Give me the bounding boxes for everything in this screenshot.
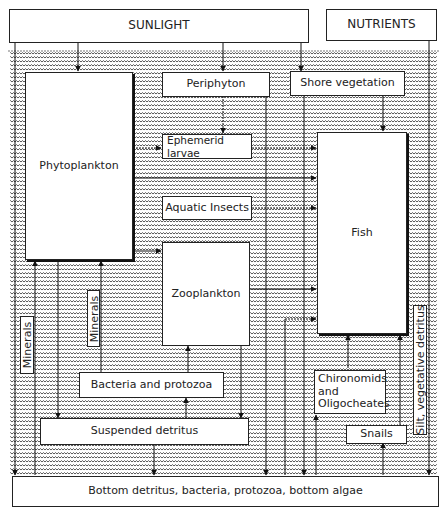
sunlight-box: SUNLIGHT — [9, 9, 309, 43]
silt-detritus-label: Silt, vegetative detritus — [414, 305, 427, 434]
nutrients-box: NUTRIENTS — [326, 9, 437, 41]
minerals-mid-box: Minerals — [87, 290, 100, 347]
silt-detritus-box: Silt, vegetative detritus — [413, 305, 427, 435]
suspended-detritus-box: Suspended detritus — [40, 418, 249, 445]
minerals-left-label: Minerals — [21, 322, 34, 368]
zooplankton-box: Zooplankton — [162, 242, 250, 346]
fish-box: Fish — [317, 132, 407, 334]
periphyton-box: Periphyton — [162, 72, 270, 97]
bacteria-protozoa-box: Bacteria and protozoa — [79, 372, 224, 398]
minerals-mid-label: Minerals — [87, 295, 100, 341]
shore-vegetation-box: Shore vegetation — [290, 71, 405, 96]
aquatic-insects-box: Aquatic Insects — [162, 196, 252, 220]
snails-box: Snails — [346, 425, 407, 444]
phytoplankton-box: Phytoplankton — [25, 72, 133, 260]
ephemerid-larvae-box: Ephemerid larvae — [162, 134, 252, 159]
minerals-left-box: Minerals — [20, 316, 34, 374]
chironomids-box: Chironomids and Oligocheates — [314, 370, 386, 414]
bottom-box: Bottom detritus, bacteria, protozoa, bot… — [12, 476, 439, 507]
